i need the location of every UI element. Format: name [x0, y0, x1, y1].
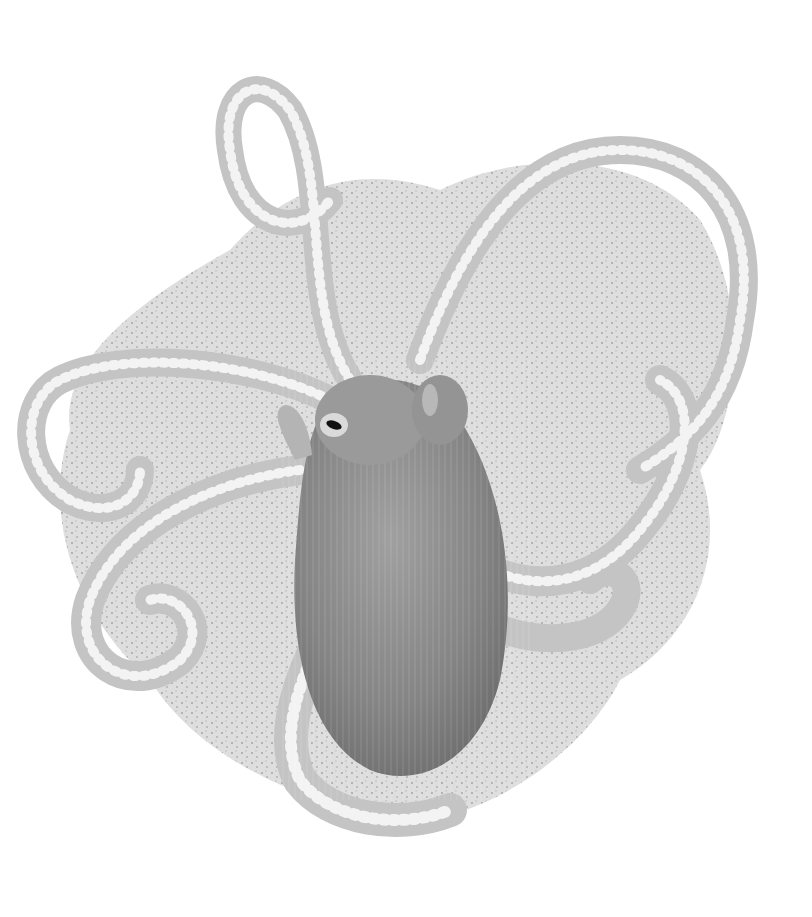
octopus-illustration — [0, 0, 812, 917]
head-lobe — [412, 375, 468, 445]
octopus-photo — [0, 0, 812, 917]
